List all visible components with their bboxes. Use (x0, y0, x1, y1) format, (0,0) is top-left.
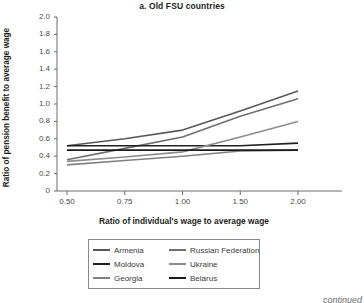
y-tick-label: 0 (24, 186, 50, 195)
legend-item-armenia: Armenia (93, 243, 169, 257)
y-tick-label: 1.8 (24, 29, 50, 38)
legend-swatch (93, 263, 110, 265)
legend-label: Russian Federation (190, 246, 259, 255)
legend-item-georgia: Georgia (93, 271, 169, 285)
legend-item-ukraine: Ukraine (169, 257, 265, 271)
x-tick-label: 2.00 (278, 197, 318, 206)
x-tick-label: 1.50 (220, 197, 260, 206)
y-tick-label: 1.0 (24, 99, 50, 108)
y-tick-label: 1.6 (24, 47, 50, 56)
legend-label: Georgia (114, 274, 142, 283)
tick-marks (54, 17, 298, 195)
legend-label: Armenia (114, 246, 144, 255)
legend-swatch (169, 263, 186, 265)
figure-panel: a. Old FSU countries Ratio of pension be… (0, 0, 364, 303)
series-lines (67, 91, 298, 165)
legend-label: Ukraine (190, 260, 218, 269)
legend-label: Moldova (114, 260, 144, 269)
legend-item-russian-federation: Russian Federation (169, 243, 265, 257)
legend-item-moldova: Moldova (93, 257, 169, 271)
y-tick-label: 0.6 (24, 134, 50, 143)
x-tick-label: 0.75 (105, 197, 145, 206)
legend-label: Belarus (190, 274, 217, 283)
chart-legend: ArmeniaRussian FederationMoldovaUkraineG… (88, 239, 260, 289)
y-tick-label: 1.4 (24, 64, 50, 73)
y-tick-label: 2.0 (24, 12, 50, 21)
legend-swatch (169, 249, 186, 251)
series-line-moldova (67, 143, 298, 146)
continued-note: continued (323, 295, 362, 303)
y-tick-label: 0.8 (24, 116, 50, 125)
legend-swatch (169, 277, 186, 279)
axis-lines (57, 17, 342, 191)
x-tick-label: 1.00 (163, 197, 203, 206)
legend-swatch (93, 277, 110, 279)
line-chart-plot (0, 0, 364, 220)
legend-swatch (93, 249, 110, 251)
legend-item-belarus: Belarus (169, 271, 265, 285)
y-tick-label: 0.4 (24, 151, 50, 160)
y-tick-label: 0.2 (24, 169, 50, 178)
y-tick-label: 1.2 (24, 82, 50, 91)
x-tick-label: 0.50 (47, 197, 87, 206)
